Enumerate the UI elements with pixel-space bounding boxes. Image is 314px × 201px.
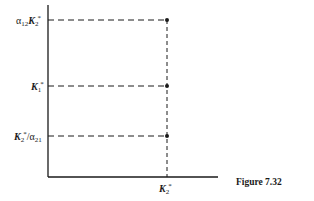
y-label-low: K2*/α21 — [14, 128, 42, 146]
point-low — [165, 134, 169, 138]
alpha-subscript: 21 — [35, 136, 42, 144]
k-superscript: * — [168, 182, 172, 190]
k-symbol: K — [31, 81, 38, 92]
k-symbol: K — [159, 183, 166, 194]
point-top — [165, 18, 169, 22]
k-symbol: K — [28, 15, 35, 26]
figure-canvas — [0, 0, 314, 201]
figure-caption: Figure 7.32 — [236, 177, 282, 187]
k-superscript: * — [37, 14, 41, 22]
k-symbol: K — [14, 131, 21, 142]
point-mid — [165, 84, 169, 88]
x-label-tick: K2* — [159, 180, 172, 198]
y-label-mid: K1* — [31, 78, 44, 96]
y-label-top: α12K2* — [16, 12, 41, 30]
k-superscript: * — [40, 80, 44, 88]
